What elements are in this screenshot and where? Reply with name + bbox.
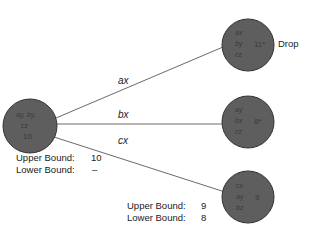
svg-text:ax: ax [235,29,243,36]
svg-text:cz: cz [235,128,243,135]
svg-text:11*: 11* [254,40,265,49]
svg-text:bx: bx [235,117,243,124]
child-node-bx: ay bx cz 8* [222,96,274,148]
cx-lower-bound-value: 8 [201,212,206,223]
svg-text:by: by [235,40,243,48]
svg-text:8*: 8* [254,117,262,126]
svg-text:cz: cz [21,122,29,129]
svg-text:10: 10 [23,132,32,141]
child-node-ax: ax by cz 11* [222,19,274,71]
svg-text:cx: cx [236,182,244,189]
root-upper-bound-value: 10 [91,152,102,163]
cx-upper-bound-value: 9 [201,200,206,211]
svg-text:9: 9 [255,193,260,202]
edge-label-bx: bx [118,109,130,120]
cx-lower-bound-label: Lower Bound: [127,212,186,223]
root-lower-bound-value: – [92,164,97,175]
svg-text:ay: ay [236,193,244,201]
root-lower-bound-label: Lower Bound: [16,164,75,175]
svg-text:ay, by,: ay, by, [16,111,36,119]
edge-label-ax: ax [118,75,130,86]
svg-text:bz: bz [236,204,244,211]
svg-text:ay: ay [235,106,243,114]
edge-label-cx: cx [118,135,129,146]
child-node-cx: cx ay bz 9 [222,171,274,223]
edge-ax [56,47,223,118]
svg-text:cz: cz [235,51,243,58]
root-node: ay, by, cz 10 [3,99,57,153]
cx-upper-bound-label: Upper Bound: [127,200,186,211]
drop-label: Drop [278,38,299,49]
root-upper-bound-label: Upper Bound: [16,152,75,163]
edge-cx [54,137,225,192]
